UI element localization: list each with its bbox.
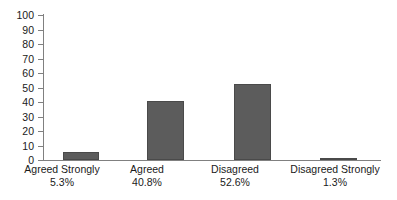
category-label-disagreed-strongly: Disagreed Strongly 1.3% (274, 163, 396, 189)
y-tick-label-100: 100 (0, 10, 34, 20)
category-percent: 1.3% (274, 176, 396, 189)
y-tick-label-30: 30 (0, 112, 34, 122)
category-name: Agreed Strongly (2, 163, 122, 176)
x-axis-line (44, 160, 381, 161)
category-name: Disagreed Strongly (274, 163, 396, 176)
bar-agreed-strongly[interactable] (63, 152, 99, 160)
y-tick-label-40: 40 (0, 97, 34, 107)
category-percent: 40.8% (107, 176, 187, 189)
category-percent: 5.3% (2, 176, 122, 189)
y-tick-label-10: 10 (0, 141, 34, 151)
category-name: Disagreed (193, 163, 277, 176)
y-tick-label-60: 60 (0, 68, 34, 78)
y-tick-mark (38, 160, 44, 161)
category-label-disagreed: Disagreed 52.6% (193, 163, 277, 189)
y-tick-label-90: 90 (0, 25, 34, 35)
category-label-agreed-strongly: Agreed Strongly 5.3% (2, 163, 122, 189)
bar-disagreed[interactable] (234, 84, 271, 160)
y-tick-label-70: 70 (0, 54, 34, 64)
bar-chart: 100 90 80 70 60 50 40 30 20 10 0 Agreed … (0, 0, 397, 200)
bar-disagreed-strongly[interactable] (320, 158, 357, 160)
category-percent: 52.6% (193, 176, 277, 189)
category-label-agreed: Agreed 40.8% (107, 163, 187, 189)
category-name: Agreed (107, 163, 187, 176)
bar-agreed[interactable] (147, 101, 184, 160)
y-tick-label-80: 80 (0, 39, 34, 49)
y-tick-label-50: 50 (0, 83, 34, 93)
y-tick-label-20: 20 (0, 126, 34, 136)
plot-area (44, 15, 381, 160)
